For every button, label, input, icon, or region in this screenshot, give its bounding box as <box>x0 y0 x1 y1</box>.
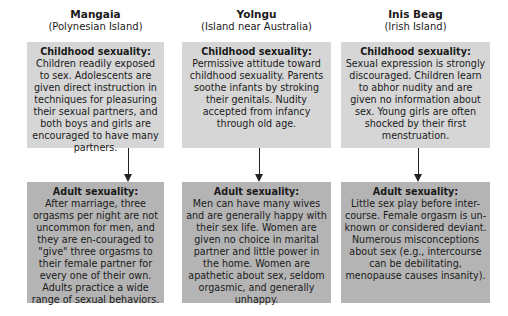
box-text: Men can have many wives and are generall… <box>185 198 328 306</box>
box-title: Adult sexuality: <box>344 186 487 198</box>
culture-subtitle: (Polynesian Island) <box>27 21 164 33</box>
box-title: Childhood sexuality: <box>30 46 161 58</box>
column-inis-beag: Inis Beag (Irish Island) Childhood sexua… <box>341 0 490 316</box>
box-title: Childhood sexuality: <box>185 46 328 58</box>
box-text: After marriage, three orgasms per night … <box>30 198 161 306</box>
culture-name: Mangaia <box>27 8 164 21</box>
box-text: Permissive attitude toward childhood sex… <box>185 58 328 130</box>
column-header: Yolngu (Island near Australia) <box>182 8 331 33</box>
box-title: Adult sexuality: <box>30 186 161 198</box>
box-title: Adult sexuality: <box>185 186 328 198</box>
column-yolngu: Yolngu (Island near Australia) Childhood… <box>182 0 331 316</box>
culture-subtitle: (Irish Island) <box>341 21 490 33</box>
culture-name: Yolngu <box>182 8 331 21</box>
adult-sexuality-box: Adult sexuality: Men can have many wives… <box>182 182 331 303</box>
culture-name: Inis Beag <box>341 8 490 21</box>
adult-sexuality-box: Adult sexuality: After marriage, three o… <box>27 182 164 303</box>
box-text: Sexual expression is strongly discourage… <box>344 58 487 142</box>
box-text: Little sex play before inter-course. Fem… <box>344 198 487 282</box>
box-title: Childhood sexuality: <box>344 46 487 58</box>
adult-sexuality-box: Adult sexuality: Little sex play before … <box>341 182 490 303</box>
column-mangaia: Mangaia (Polynesian Island) Childhood se… <box>27 0 164 316</box>
childhood-sexuality-box: Childhood sexuality: Children readily ex… <box>27 42 164 148</box>
childhood-sexuality-box: Childhood sexuality: Sexual expression i… <box>341 42 490 148</box>
box-text: Children readily exposed to sex. Adolesc… <box>30 58 161 154</box>
childhood-sexuality-box: Childhood sexuality: Permissive attitude… <box>182 42 331 148</box>
column-header: Inis Beag (Irish Island) <box>341 8 490 33</box>
column-header: Mangaia (Polynesian Island) <box>27 8 164 33</box>
culture-subtitle: (Island near Australia) <box>182 21 331 33</box>
